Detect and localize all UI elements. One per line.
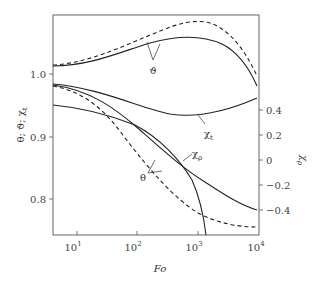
x-axis-label: Fo	[153, 263, 166, 274]
theta-leader	[148, 160, 162, 173]
y-left-tick-0.8: 0.8	[30, 194, 46, 205]
curve-vartheta-upper	[53, 37, 257, 86]
y-left-tick-1.0: 1.0	[30, 69, 46, 80]
x-tick-10-2: 102	[124, 240, 141, 253]
curve-chi-t	[53, 84, 257, 115]
chi-t-leader	[198, 115, 205, 124]
annotation-theta: θ	[140, 172, 146, 183]
x-axis: 101 102 103 104 Fo	[64, 231, 265, 274]
curves	[53, 21, 257, 235]
vartheta-leader	[147, 42, 160, 60]
y-right-tick-0.4: 0.4	[266, 105, 282, 116]
x-tick-10-4: 104	[247, 240, 265, 253]
y-right-label: χρ	[296, 154, 310, 166]
y-right-tick-0.2: 0.2	[266, 130, 282, 141]
annotation-chi-t: χt	[204, 128, 213, 142]
curve-vartheta-lower	[53, 85, 257, 210]
y-left-label: θ; ϑ; χt	[15, 107, 29, 142]
chi-rho-leader	[183, 154, 192, 161]
annotation-vartheta: ϑ	[149, 65, 156, 76]
y-right-tick-neg0.2: −0.2	[266, 180, 290, 191]
left-y-axis: 1.0 0.9 0.8 θ; ϑ; χt	[15, 69, 53, 205]
y-right-tick-neg0.4: −0.4	[266, 205, 290, 216]
annotation-chi-rho: χρ	[192, 148, 202, 162]
y-right-tick-0: 0	[266, 155, 272, 166]
right-y-axis: 0.4 0.2 0 −0.2 −0.4 χρ	[259, 105, 310, 216]
x-tick-10-1: 101	[64, 240, 81, 253]
chart: 1.0 0.9 0.8 θ; ϑ; χt 0.4 0.2 0 −0.2 −0.4…	[0, 0, 315, 281]
x-tick-10-3: 103	[185, 240, 202, 253]
y-left-tick-0.9: 0.9	[30, 132, 46, 143]
curve-theta-lower	[53, 86, 257, 227]
curve-chi-rho	[53, 105, 206, 235]
